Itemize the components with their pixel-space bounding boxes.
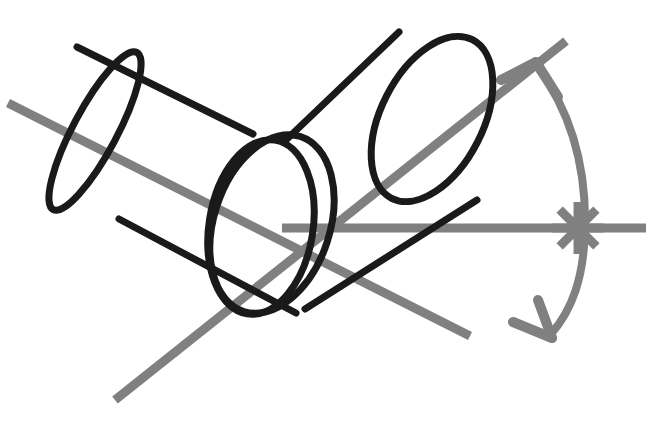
figure-background [0, 0, 650, 421]
figure-canvas [0, 0, 650, 421]
angle-vertex-star [552, 202, 604, 254]
geometry-figure [0, 0, 650, 421]
